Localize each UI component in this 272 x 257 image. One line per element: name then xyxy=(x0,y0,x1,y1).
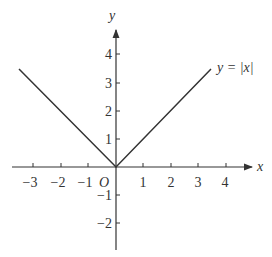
y-tick-labels: 4 3 2 1 −1 −2 xyxy=(97,47,112,231)
x-tick-labels: −3 −2 −1 1 2 3 4 xyxy=(23,175,229,190)
origin-label: O xyxy=(99,175,109,190)
x-tick-label: 2 xyxy=(168,175,175,190)
y-tick-label: −1 xyxy=(97,188,112,203)
y-tick-label: 1 xyxy=(105,132,112,147)
x-tick-label: −1 xyxy=(78,175,93,190)
x-tick-label: −2 xyxy=(51,175,66,190)
y-tick-label: 3 xyxy=(105,76,112,91)
y-tick-label: 2 xyxy=(105,104,112,119)
x-tick-label: 4 xyxy=(222,175,229,190)
y-tick-label: 4 xyxy=(105,47,112,62)
y-tick-label: −2 xyxy=(97,216,112,231)
y-axis-label: y xyxy=(107,8,116,23)
function-label: y = |x| xyxy=(215,60,254,75)
abs-value-line xyxy=(19,69,211,167)
x-tick-label: 1 xyxy=(140,175,147,190)
x-tick-label: −3 xyxy=(23,175,38,190)
x-axis-label: x xyxy=(256,159,264,174)
x-tick-label: 3 xyxy=(195,175,202,190)
abs-value-graph: −3 −2 −1 1 2 3 4 4 3 2 1 −1 −2 O x y y =… xyxy=(0,0,272,257)
